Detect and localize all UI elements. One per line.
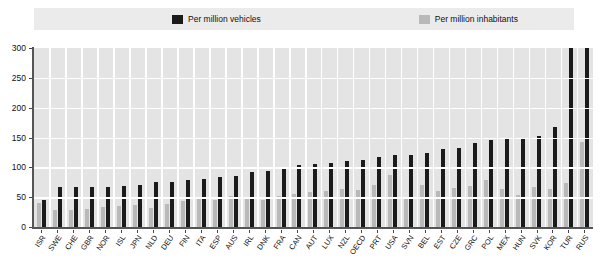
x-axis-tick-label: GRC: [463, 234, 479, 252]
y-axis: 050100150200250300: [0, 42, 33, 228]
legend-label-inhabitants: Per million inhabitants: [435, 15, 518, 24]
vertical-gridline: [497, 48, 499, 227]
x-axis-cell: OECD: [353, 230, 369, 269]
x-axis-cell: ITA: [193, 230, 209, 269]
bar-inhabitants: [484, 180, 488, 227]
x-axis-tick-mark: [552, 230, 553, 233]
x-axis-tick-mark: [393, 230, 394, 233]
x-axis-tick-label: USA: [384, 234, 399, 251]
vertical-gridline: [321, 48, 323, 227]
x-axis-cell: ISR: [34, 230, 50, 269]
bar-inhabitants: [117, 206, 121, 227]
x-axis-tick-label: FIN: [178, 234, 191, 248]
x-axis-tick-label: SVK: [528, 234, 543, 251]
x-axis-cell: KOR: [545, 230, 561, 269]
x-axis-cell: SWE: [49, 230, 65, 269]
x-axis-tick-label: ESP: [209, 234, 224, 251]
x-axis-tick-mark: [169, 230, 170, 233]
bar-vehicles: [345, 161, 349, 227]
x-axis-cell: GRC: [465, 230, 481, 269]
bar-vehicles: [361, 160, 365, 227]
x-axis-cell: AUS: [225, 230, 241, 269]
legend-item-inhabitants: Per million inhabitants: [419, 15, 518, 24]
bar-vehicles: [329, 163, 333, 227]
x-axis-tick-mark: [505, 230, 506, 233]
bar-vehicles: [218, 177, 222, 227]
x-axis-tick-mark: [265, 230, 266, 233]
bar-vehicles: [473, 143, 477, 227]
bar-vehicles: [409, 155, 413, 227]
x-axis-tick-mark: [568, 230, 569, 233]
x-axis-tick-mark: [537, 230, 538, 233]
x-axis-tick-label: KOR: [543, 234, 559, 252]
vertical-gridline: [417, 48, 419, 227]
x-axis-tick-label: ITA: [195, 234, 208, 248]
x-axis-tick-mark: [185, 230, 186, 233]
y-axis-tick-label: 0: [21, 223, 26, 232]
bar-inhabitants: [133, 205, 137, 227]
vertical-gridline: [193, 48, 195, 227]
x-axis-tick-label: CAN: [288, 234, 304, 252]
horizontal-gridline: [34, 108, 593, 110]
vertical-gridline: [305, 48, 307, 227]
x-axis-tick-mark: [41, 230, 42, 233]
x-axis-cell: HUN: [513, 230, 529, 269]
bar-inhabitants: [229, 196, 233, 227]
x-axis-tick-label: JPN: [129, 234, 144, 250]
vertical-gridline: [369, 48, 371, 227]
vertical-gridline: [433, 48, 435, 227]
vertical-gridline: [209, 48, 211, 227]
x-axis-tick-mark: [121, 230, 122, 233]
x-axis-tick-mark: [137, 230, 138, 233]
x-axis-cell: PRT: [369, 230, 385, 269]
y-axis-tick-label: 250: [12, 74, 26, 83]
x-axis-cell: DNK: [257, 230, 273, 269]
bar-vehicles: [393, 155, 397, 227]
x-axis-tick-mark: [281, 230, 282, 233]
x-axis-tick-label: DNK: [256, 234, 272, 252]
bar-vehicles: [42, 200, 46, 227]
bar-inhabitants: [213, 200, 217, 227]
x-axis-cell: IRL: [241, 230, 257, 269]
bar-inhabitants: [277, 196, 281, 227]
vertical-gridline: [385, 48, 387, 227]
x-axis-tick-mark: [201, 230, 202, 233]
bar-inhabitants: [85, 209, 89, 227]
x-axis-tick-mark: [313, 230, 314, 233]
vertical-gridline: [241, 48, 243, 227]
bar-vehicles: [441, 149, 445, 227]
horizontal-gridline: [34, 78, 593, 80]
x-axis-cell: CZE: [449, 230, 465, 269]
x-axis-tick-label: DEU: [160, 234, 176, 252]
x-axis-cell: DEU: [161, 230, 177, 269]
x-axis-cell: FRA: [273, 230, 289, 269]
bar-vehicles: [106, 187, 110, 227]
legend-swatch-icon-inhabitants: [419, 15, 430, 24]
x-axis-tick-label: AUS: [224, 234, 239, 251]
x-axis-tick-label: CHE: [64, 234, 80, 252]
vertical-gridline: [97, 48, 99, 227]
x-axis-tick-mark: [105, 230, 106, 233]
x-axis-tick-mark: [57, 230, 58, 233]
x-axis-cell: FIN: [177, 230, 193, 269]
y-axis-tick-label: 200: [12, 103, 26, 112]
x-axis-tick-mark: [329, 230, 330, 233]
bar-inhabitants: [165, 204, 169, 227]
chart-figure: Per million vehicles Per million inhabit…: [0, 0, 609, 269]
x-axis-cell: TUR: [560, 230, 576, 269]
vertical-gridline: [289, 48, 291, 227]
bar-inhabitants: [388, 175, 392, 228]
x-axis-tick-label: MEX: [495, 234, 511, 252]
legend-label-vehicles: Per million vehicles: [188, 15, 261, 24]
legend-item-vehicles: Per million vehicles: [172, 15, 261, 24]
y-axis-tick-label: 300: [12, 44, 26, 53]
x-axis-tick-mark: [249, 230, 250, 233]
bar-inhabitants: [564, 183, 568, 227]
vertical-gridline: [273, 48, 275, 227]
bar-vehicles: [170, 182, 174, 227]
vertical-gridline: [337, 48, 339, 227]
bar-inhabitants: [452, 188, 456, 227]
x-axis-tick-mark: [345, 230, 346, 233]
vertical-gridline: [65, 48, 67, 227]
x-axis-cell: RUS: [576, 230, 592, 269]
